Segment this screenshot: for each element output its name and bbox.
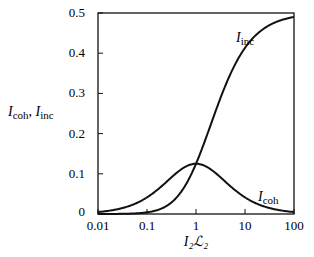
label-inc: Iinc (235, 30, 254, 47)
svg-text:0.1: 0.1 (69, 166, 85, 181)
y-axis-label: Icoh, Iinc (7, 104, 54, 121)
svg-text:0.3: 0.3 (69, 85, 85, 100)
curve-inc (98, 17, 294, 214)
svg-text:0.4: 0.4 (69, 45, 86, 60)
svg-text:0.01: 0.01 (87, 218, 110, 233)
svg-text:100: 100 (284, 218, 304, 233)
svg-text:0.5: 0.5 (69, 5, 85, 20)
svg-text:0.2: 0.2 (69, 126, 85, 141)
label-coh: Icoh (257, 189, 279, 206)
svg-text:0.1: 0.1 (139, 218, 155, 233)
x-ticks: 0.010.1110100 (87, 209, 304, 233)
svg-text:1: 1 (193, 218, 200, 233)
plot-frame (98, 13, 294, 214)
chart: 00.10.20.30.40.5 0.010.1110100 Iinc Icoh… (0, 0, 314, 257)
svg-text:0: 0 (79, 204, 86, 219)
svg-text:10: 10 (239, 218, 252, 233)
x-axis-label: I₂ℒ₂ (183, 234, 209, 249)
